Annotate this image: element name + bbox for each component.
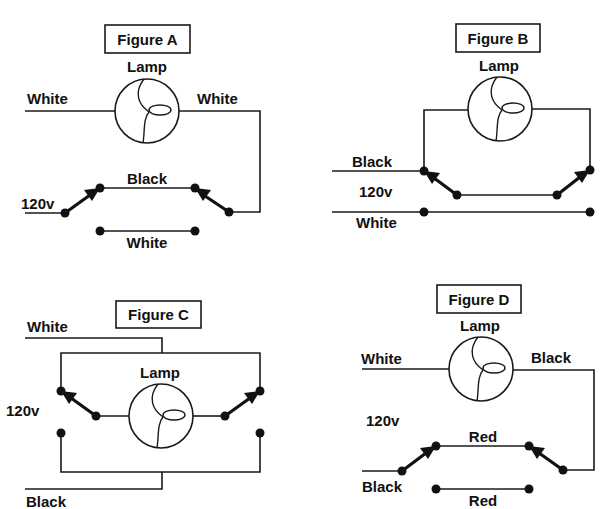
figure-d: Figure D Lamp White Black 120v bbox=[361, 285, 594, 509]
figure-b-title: Figure B bbox=[468, 30, 529, 47]
figure-c: Figure C Lamp White 120v Bla bbox=[6, 301, 265, 509]
figure-a-right-white-wire bbox=[179, 111, 260, 212]
figure-d-title: Figure D bbox=[449, 291, 510, 308]
figure-c-white-wire bbox=[25, 338, 162, 353]
figure-d-white-label: White bbox=[361, 350, 402, 367]
figure-d-supply-label: 120v bbox=[366, 412, 400, 429]
figure-b-lamp-label: Lamp bbox=[479, 57, 519, 74]
figure-d-black-lamp-wire bbox=[513, 370, 594, 470]
figure-a-right-white-label: White bbox=[197, 90, 238, 107]
figure-a-supply-label: 120v bbox=[21, 195, 55, 212]
figure-b-right-lamp-wire bbox=[532, 109, 590, 170]
figure-b-left-lamp-wire bbox=[424, 110, 468, 171]
figure-c-white-label: White bbox=[27, 318, 68, 335]
figure-c-black-label: Black bbox=[26, 493, 67, 509]
figure-d-black-lamp-label: Black bbox=[531, 349, 572, 366]
figure-c-lamp-label: Lamp bbox=[140, 364, 180, 381]
figure-d-black-supply-label: Black bbox=[362, 478, 403, 495]
figure-c-left-switch-lever bbox=[71, 398, 96, 416]
three-way-switch-wiring-diagrams: Figure A Lamp White White Black bbox=[0, 0, 609, 509]
figure-d-red-top-label: Red bbox=[469, 428, 497, 445]
figure-b-black-label: Black bbox=[352, 153, 393, 170]
figure-c-right-switch-lever bbox=[225, 398, 250, 416]
figure-a-lamp-label: Lamp bbox=[127, 58, 167, 75]
figure-d-lamp-icon bbox=[449, 337, 513, 401]
figure-d-lamp-label: Lamp bbox=[460, 317, 500, 334]
figure-c-lamp-icon bbox=[129, 384, 193, 448]
figure-a-title: Figure A bbox=[117, 31, 177, 48]
figure-c-supply-label: 120v bbox=[6, 402, 40, 419]
figure-b-supply-label: 120v bbox=[359, 183, 393, 200]
figure-a-left-white-label: White bbox=[27, 90, 68, 107]
figure-d-red-bottom-label: Red bbox=[469, 492, 497, 509]
figure-c-black-wire bbox=[25, 472, 162, 489]
figure-a-white-traveler-label: White bbox=[127, 234, 168, 251]
figure-c-title: Figure C bbox=[128, 306, 189, 323]
figure-b-white-label: White bbox=[356, 214, 397, 231]
figure-a-left-switch-lever bbox=[65, 195, 90, 213]
figure-a: Figure A Lamp White White Black bbox=[21, 25, 260, 251]
figure-d-left-switch-lever bbox=[402, 453, 426, 471]
figure-a-black-traveler-label: Black bbox=[127, 170, 168, 187]
figure-b: Figure B Lamp Black 120v White bbox=[332, 24, 595, 231]
figure-a-lamp-icon bbox=[115, 79, 179, 143]
figure-b-terminals bbox=[420, 166, 595, 217]
figure-b-lamp-icon bbox=[468, 77, 532, 141]
